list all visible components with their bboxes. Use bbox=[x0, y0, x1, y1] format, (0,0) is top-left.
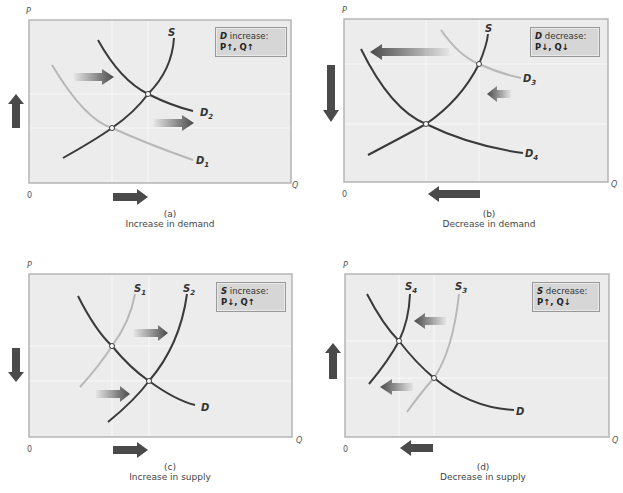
svg-text:Q: Q bbox=[612, 436, 618, 445]
p-down-arrow-icon bbox=[323, 65, 339, 122]
svg-text:P: P bbox=[26, 7, 31, 16]
effect-box-b: D decrease: P↓, Q↓ bbox=[530, 27, 600, 57]
effect-box-a: D increase: P↑, Q↑ bbox=[215, 27, 287, 57]
svg-text:P: P bbox=[343, 261, 348, 270]
svg-text:0: 0 bbox=[27, 191, 32, 200]
caption-b: (b) Decrease in demand bbox=[389, 209, 589, 229]
effect-box-c: S increase: P↓, Q↑ bbox=[216, 282, 286, 312]
caption-a: (a) Increase in demand bbox=[70, 209, 270, 229]
p-up-arrow-icon bbox=[8, 94, 24, 128]
svg-text:0: 0 bbox=[343, 445, 348, 454]
svg-text:P: P bbox=[342, 6, 347, 15]
svg-text:Q: Q bbox=[296, 436, 302, 445]
svg-text:0: 0 bbox=[27, 445, 32, 454]
panel-b: S D3 D4 P Q 0 D decrease: P↓, Q↓ (b) Dec… bbox=[311, 0, 623, 245]
panel-a: S D2 D1 P Q 0 D increase: P↑, Q↑ (a) Inc… bbox=[0, 0, 311, 245]
svg-text:0: 0 bbox=[342, 190, 347, 199]
panel-c: S1 S2 D P Q 0 S increase: P↓, Q↑ (c) Inc… bbox=[0, 250, 311, 493]
svg-text:Q: Q bbox=[292, 181, 298, 190]
svg-text:Q: Q bbox=[611, 180, 617, 189]
caption-c: (c) Increase in supply bbox=[70, 462, 270, 482]
caption-d: (d) Decrease in supply bbox=[383, 462, 583, 482]
svg-text:D: D bbox=[201, 402, 209, 413]
svg-text:S: S bbox=[485, 23, 492, 34]
q-down-arrow-icon bbox=[428, 186, 480, 202]
svg-text:D: D bbox=[516, 406, 524, 417]
q-up-arrow-icon bbox=[113, 189, 148, 205]
label-s: S bbox=[168, 27, 175, 38]
svg-text:P: P bbox=[27, 261, 32, 270]
effect-box-d: S decrease: P↑, Q↓ bbox=[532, 282, 600, 312]
panel-d: S4 S3 D P Q 0 S decrease: P↑, Q↓ (d) Dec… bbox=[311, 250, 623, 493]
